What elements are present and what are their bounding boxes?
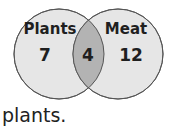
meat-only-count: 12 — [119, 45, 143, 65]
plants-only-count: 7 — [39, 45, 51, 65]
plants-label: Plants — [23, 20, 76, 38]
meat-label: Meat — [105, 20, 147, 38]
intersection-count: 4 — [82, 45, 94, 65]
caption-text: plants. — [2, 104, 66, 126]
